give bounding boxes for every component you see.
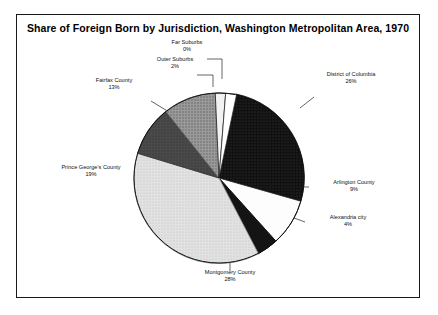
pie-label-arlington-county-value: 9%	[310, 186, 398, 193]
pie-label-fairfax-county-name: Fairfax County	[96, 77, 132, 83]
pie-label-arlington-county: Arlington County 9%	[310, 179, 398, 193]
pie-label-montgomery-county-name: Montgomery County	[205, 269, 255, 275]
pie-label-fairfax-county-value: 13%	[75, 84, 153, 91]
pie-label-far-suburbs: Far Suburbs 0%	[151, 39, 223, 53]
pie-label-fairfax-county: Fairfax County 13%	[75, 77, 153, 91]
pie-label-district-of-columbia-name: District of Columbia	[327, 71, 376, 77]
pie-label-alexandria-city-name: Alexandria city	[330, 214, 366, 220]
pie-label-prince-georges-county-name: Prince George's County	[61, 164, 120, 170]
pie-label-arlington-county-name: Arlington County	[333, 179, 374, 185]
pie-label-outer-suburbs: Outer Suburbs 2%	[139, 56, 211, 70]
pie-label-district-of-columbia: District of Columbia 26%	[302, 71, 400, 85]
pie-svg	[17, 15, 421, 299]
pie-label-prince-georges-county-value: 19%	[37, 171, 145, 178]
pie-label-district-of-columbia-value: 26%	[302, 78, 400, 85]
pie-label-alexandria-city-value: 4%	[305, 221, 391, 228]
pie-label-outer-suburbs-value: 2%	[139, 63, 211, 70]
pie-label-prince-georges-county: Prince George's County 19%	[37, 164, 145, 178]
pie-label-far-suburbs-name: Far Suburbs	[172, 39, 203, 45]
pie-chart: Far Suburbs 0% Outer Suburbs 2% Fairfax …	[17, 15, 419, 297]
pie-label-montgomery-county: Montgomery County 28%	[177, 269, 283, 283]
pie-label-alexandria-city: Alexandria city 4%	[305, 214, 391, 228]
pie-label-montgomery-county-value: 28%	[177, 276, 283, 283]
pie-label-far-suburbs-value: 0%	[151, 46, 223, 53]
chart-frame: Share of Foreign Born by Jurisdiction, W…	[16, 14, 420, 298]
pie-label-outer-suburbs-name: Outer Suburbs	[157, 56, 193, 62]
